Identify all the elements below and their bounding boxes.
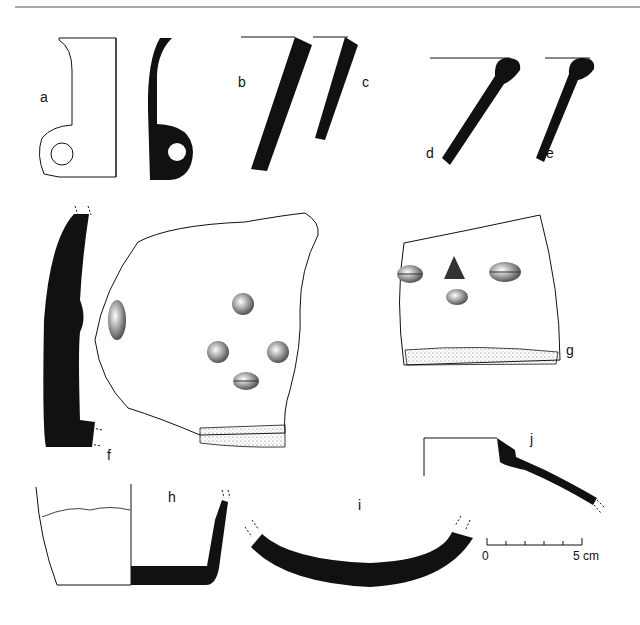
- label-i: i: [358, 497, 361, 513]
- scale-bar: [487, 538, 582, 545]
- label-b: b: [238, 74, 246, 90]
- label-c: c: [362, 74, 369, 90]
- sherd-g: [397, 215, 560, 365]
- sherd-j: [424, 438, 605, 513]
- sherd-a: [39, 38, 193, 180]
- sherd-e: [536, 58, 594, 162]
- scale-end-label: 5 cm: [573, 549, 599, 563]
- label-g: g: [566, 342, 574, 358]
- label-e: e: [546, 145, 554, 161]
- sherd-f-face: [95, 213, 318, 447]
- scale-start-label: 0: [482, 549, 489, 563]
- sherd-b: [241, 37, 312, 171]
- label-d: d: [426, 145, 434, 161]
- label-j: j: [529, 431, 533, 447]
- sherd-c: [313, 37, 358, 140]
- sherd-i: [245, 516, 473, 587]
- sherd-d: [430, 58, 520, 165]
- pottery-figure: a b c d e f: [0, 0, 640, 625]
- sherd-f-profile: [43, 206, 103, 447]
- label-h: h: [168, 489, 176, 505]
- sherd-h: [36, 484, 230, 585]
- label-a: a: [40, 89, 48, 105]
- label-f: f: [107, 447, 111, 463]
